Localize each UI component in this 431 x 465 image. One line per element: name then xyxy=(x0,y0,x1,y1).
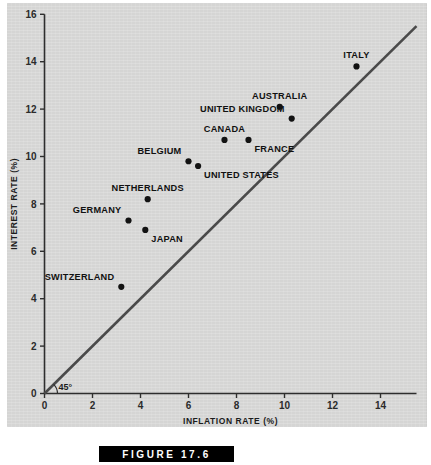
x-tick-label: 2 xyxy=(90,400,96,411)
data-point-label: JAPAN xyxy=(151,234,183,244)
x-tick-label: 10 xyxy=(279,400,291,411)
data-point-marker xyxy=(125,217,131,223)
y-axis-ticks: 0246810121416 xyxy=(25,9,44,399)
data-point-label: UNITED KINGDOM xyxy=(200,104,285,114)
data-point-marker xyxy=(118,284,124,290)
x-tick-label: 14 xyxy=(375,400,387,411)
y-axis-title: INTEREST RATE (%) xyxy=(9,158,19,250)
y-tick-label: 0 xyxy=(31,388,37,399)
figure-container: 0246810121416 02468101214 45° SWITZERLAN… xyxy=(0,0,431,465)
y-tick-label: 4 xyxy=(31,293,37,304)
data-point-marker xyxy=(245,137,251,143)
data-point-marker xyxy=(185,158,191,164)
data-point-label: NETHERLANDS xyxy=(112,183,184,193)
figure-caption-text: FIGURE 17.6 xyxy=(122,449,211,460)
y-tick-label: 12 xyxy=(25,104,37,115)
x-tick-label: 12 xyxy=(327,400,339,411)
x-tick-label: 8 xyxy=(234,400,240,411)
y-tick-label: 16 xyxy=(25,9,37,20)
y-tick-label: 6 xyxy=(31,246,37,257)
data-point-label: ITALY xyxy=(343,50,369,60)
angle-annotation: 45° xyxy=(59,382,73,392)
x-tick-label: 4 xyxy=(138,400,144,411)
data-point-marker xyxy=(142,227,148,233)
x-axis-title: INFLATION RATE (%) xyxy=(183,416,278,426)
x-axis-ticks: 02468101214 xyxy=(42,394,387,412)
x-tick-label: 6 xyxy=(186,400,192,411)
data-point-label: CANADA xyxy=(204,124,245,134)
y-tick-label: 14 xyxy=(25,56,37,67)
y-tick-label: 2 xyxy=(31,341,37,352)
data-point-label: FRANCE xyxy=(255,144,295,154)
data-point-label: SWITZERLAND xyxy=(45,272,115,282)
data-point-marker xyxy=(221,137,227,143)
y-tick-label: 8 xyxy=(31,199,37,210)
scatter-chart: 0246810121416 02468101214 45° SWITZERLAN… xyxy=(0,0,431,430)
data-point-marker xyxy=(353,63,359,69)
data-point-label: BELGIUM xyxy=(137,146,181,156)
y-tick-label: 10 xyxy=(25,151,37,162)
x-tick-label: 0 xyxy=(42,400,48,411)
data-point-label: AUSTRALIA xyxy=(252,91,307,101)
data-point-label: UNITED STATES xyxy=(204,170,279,180)
data-point-marker xyxy=(195,163,201,169)
angle-arc-icon xyxy=(54,384,58,393)
data-point-label: GERMANY xyxy=(73,205,122,215)
figure-caption-bar: FIGURE 17.6 xyxy=(99,446,234,462)
data-point-marker xyxy=(145,196,151,202)
data-point-marker xyxy=(289,115,295,121)
data-point-labels-group: SWITZERLANDJAPANGERMANYNETHERLANDSUNITED… xyxy=(45,50,370,281)
